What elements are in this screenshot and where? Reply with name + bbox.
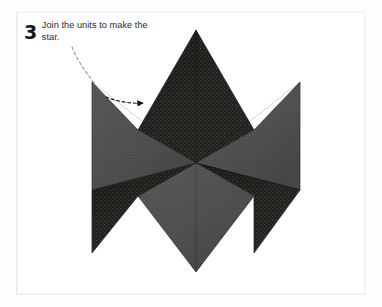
star-figure xyxy=(0,0,382,307)
star-svg xyxy=(0,0,382,307)
annotation-leader xyxy=(72,47,95,84)
illustration-page: 3 Join the units to make the star. xyxy=(0,0,382,307)
